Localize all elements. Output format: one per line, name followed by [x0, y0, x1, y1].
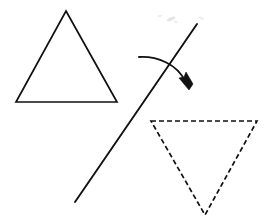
scan-smudge-icon-4: [198, 16, 204, 20]
rotation-arrow-curve: [139, 57, 185, 81]
mirror-line: [75, 24, 197, 202]
image-triangle-dashed: [151, 121, 257, 215]
scan-smudge-icon-3: [157, 15, 162, 18]
preimage-triangle: [16, 11, 117, 102]
scan-artifact-group: [157, 15, 204, 24]
diagram-canvas: Reflection of a triangle across a slante…: [0, 0, 267, 224]
scan-smudge-icon-2: [174, 20, 179, 23]
reflection-diagram: Reflection of a triangle across a slante…: [0, 0, 267, 224]
